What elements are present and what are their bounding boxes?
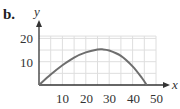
grid: [39, 36, 156, 85]
x-axis-arrow-icon: [163, 82, 170, 88]
x-tick-10: 10: [56, 92, 69, 105]
x-tick-40: 40: [127, 92, 140, 105]
axes: [36, 20, 170, 88]
y-axis-arrow-icon: [36, 20, 42, 27]
data-curve: [39, 49, 147, 85]
x-tick-50: 50: [150, 92, 163, 105]
y-tick-10: 10: [20, 56, 33, 69]
y-tick-20: 20: [20, 32, 33, 45]
x-tick-30: 30: [103, 92, 116, 105]
y-axis-label: y: [34, 5, 40, 18]
x-axis-label: x: [172, 78, 178, 91]
x-tick-20: 20: [80, 92, 93, 105]
